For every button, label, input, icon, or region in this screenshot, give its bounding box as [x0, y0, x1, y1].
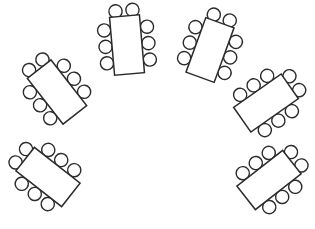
seating-floorplan [0, 0, 315, 229]
chair-icon[interactable] [98, 40, 112, 54]
chair-icon[interactable] [100, 56, 114, 70]
chair-icon[interactable] [97, 23, 111, 37]
chair-icon[interactable] [140, 20, 154, 34]
table-surface[interactable] [110, 15, 145, 75]
floorplan-canvas [0, 0, 315, 229]
chair-icon[interactable] [143, 52, 157, 66]
chair-icon[interactable] [141, 36, 155, 50]
